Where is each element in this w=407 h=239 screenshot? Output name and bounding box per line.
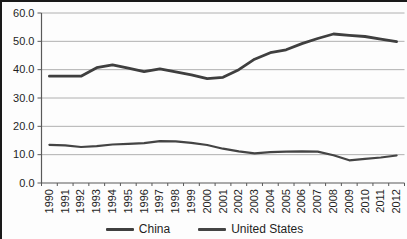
x-axis-label: 2010 (359, 189, 371, 213)
x-axis-label: 2005 (280, 189, 292, 213)
legend-line-swatch-united-states (198, 228, 226, 231)
y-axis-label: 0.0 (19, 177, 34, 189)
legend-label-united-states: United States (231, 223, 303, 235)
x-axis-label: 1992 (74, 189, 86, 213)
x-axis-label: 1996 (138, 189, 150, 213)
chart-canvas: 60.050.040.030.020.010.00.01990199119921… (2, 2, 407, 239)
x-axis-label: 2012 (390, 189, 402, 213)
legend-item-china: China (106, 223, 170, 235)
series-line-united-states (49, 141, 396, 160)
chart-legend: China United States (2, 223, 407, 235)
x-axis-label: 1993 (90, 189, 102, 213)
y-axis-label: 20.0 (13, 120, 34, 132)
x-axis-label: 2004 (264, 189, 276, 213)
series-line-china (49, 34, 396, 79)
chart: 60.050.040.030.020.010.00.01990199119921… (0, 0, 407, 239)
x-axis-label: 1997 (153, 189, 165, 213)
x-axis-label: 1998 (169, 189, 181, 213)
y-axis-label: 60.0 (13, 7, 34, 19)
x-axis-label: 2002 (232, 189, 244, 213)
x-axis-label: 2008 (327, 189, 339, 213)
x-axis-label: 2006 (295, 189, 307, 213)
x-axis-label: 1991 (59, 189, 71, 213)
x-axis-label: 1994 (106, 189, 118, 213)
y-axis-label: 40.0 (13, 63, 34, 75)
x-axis-label: 2009 (343, 189, 355, 213)
x-axis-label: 1999 (185, 189, 197, 213)
legend-label-china: China (139, 223, 170, 235)
x-axis-label: 1995 (122, 189, 134, 213)
y-axis-label: 30.0 (13, 92, 34, 104)
y-axis-label: 10.0 (13, 148, 34, 160)
x-axis-label: 2003 (248, 189, 260, 213)
x-axis-label: 2007 (311, 189, 323, 213)
legend-item-united-states: United States (198, 223, 303, 235)
x-axis-label: 1990 (43, 189, 55, 213)
x-axis-label: 2001 (217, 189, 229, 213)
legend-line-swatch-china (106, 228, 134, 231)
x-axis-label: 2011 (374, 189, 386, 213)
x-axis-label: 2000 (201, 189, 213, 213)
y-axis-label: 50.0 (13, 35, 34, 47)
